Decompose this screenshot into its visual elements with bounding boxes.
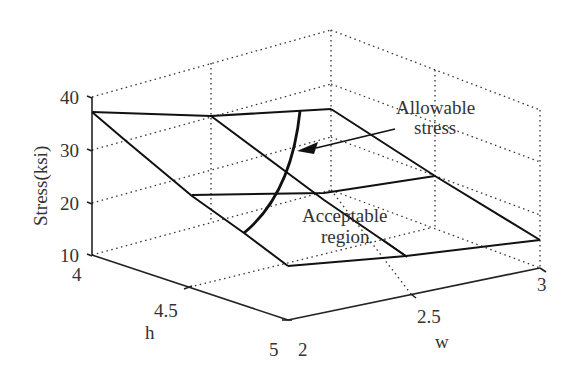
acceptable-region-annotation: Acceptable region: [302, 205, 407, 257]
surface-edge-w2: [92, 112, 288, 266]
svg-text:Acceptable: Acceptable: [302, 205, 387, 226]
svg-text:40: 40: [60, 87, 79, 108]
allowable-stress-curve: [244, 111, 300, 233]
svg-text:region: region: [321, 226, 370, 247]
surface-edge-h4: [92, 109, 331, 116]
background-grid: [92, 30, 540, 294]
w-axis-label: w: [435, 331, 449, 352]
svg-text:2: 2: [298, 339, 308, 360]
svg-text:10: 10: [60, 245, 79, 266]
svg-text:4.5: 4.5: [154, 300, 178, 321]
z-axis-label: Stress(ksi): [30, 146, 52, 226]
svg-text:2.5: 2.5: [417, 306, 441, 327]
z-tick-labels: 40 30 20 10: [60, 87, 79, 266]
surface-mesh-w25: [211, 116, 406, 256]
stress-surface-chart: 40 30 20 10 4 4.5 5 2 2.5 3 Stress(ksi) …: [0, 0, 564, 385]
w-tick-labels: 2 2.5 3: [298, 274, 547, 360]
svg-text:Allowable: Allowable: [396, 97, 475, 118]
svg-text:4: 4: [72, 264, 82, 285]
arrow-head-icon: [297, 142, 318, 154]
svg-text:30: 30: [60, 140, 79, 161]
h-tick-labels: 4 4.5 5: [72, 264, 279, 360]
w-axis-line: [288, 268, 540, 320]
svg-text:5: 5: [269, 339, 279, 360]
svg-text:20: 20: [60, 193, 79, 214]
svg-text:3: 3: [537, 274, 547, 295]
svg-text:stress: stress: [414, 117, 456, 138]
h-axis-label: h: [145, 322, 155, 343]
